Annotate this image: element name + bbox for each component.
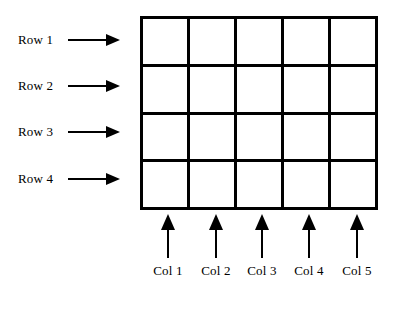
col-label-5: Col 5	[329, 264, 385, 277]
col-label-group: Col 1 Col 2 Col 3 Col 4 Col 5	[0, 0, 398, 312]
grid-diagram: Row 1 Row 2 Row 3 Row 4 Col 1 Col 2 Col …	[0, 0, 398, 312]
